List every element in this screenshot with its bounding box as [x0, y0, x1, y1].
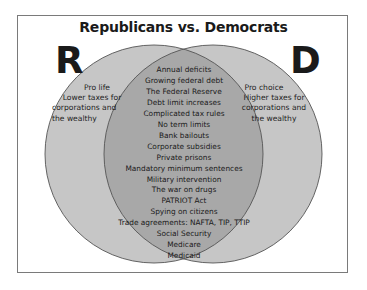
- list-item: Medicare: [108, 240, 260, 251]
- list-item: Mandatory minimum sentences: [108, 164, 260, 175]
- list-item: No term limits: [108, 120, 260, 131]
- list-item: The war on drugs: [108, 185, 260, 196]
- shared-positions-list: Annual deficits Growing federal debt The…: [108, 65, 260, 262]
- list-item: Private prisons: [108, 153, 260, 164]
- list-item: Bank bailouts: [108, 131, 260, 142]
- list-item: Spying on citizens: [108, 207, 260, 218]
- list-item: Medicaid: [108, 251, 260, 262]
- list-item: Debt limit increases: [108, 98, 260, 109]
- democrats-letter: D: [290, 42, 321, 79]
- list-item: Complicated tax rules: [108, 109, 260, 120]
- list-item: Growing federal debt: [108, 76, 260, 87]
- list-item: PATRIOT Act: [108, 196, 260, 207]
- republicans-letter: R: [55, 42, 84, 79]
- list-item: Military intervention: [108, 175, 260, 186]
- list-item: Trade agreements: NAFTA, TIP, TTIP: [108, 218, 260, 229]
- list-item: Annual deficits: [108, 65, 260, 76]
- list-item: Corporate subsidies: [108, 142, 260, 153]
- list-item: The Federal Reserve: [108, 87, 260, 98]
- list-item: Social Security: [108, 229, 260, 240]
